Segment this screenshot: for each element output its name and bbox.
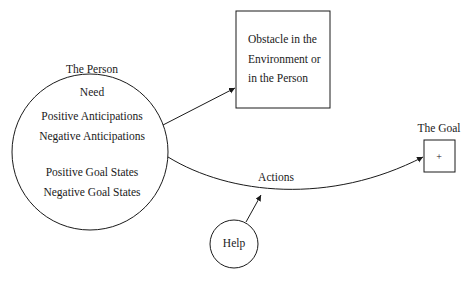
arrow-to-obstacle [163, 88, 235, 125]
positive-goal-states-label: Positive Goal States [46, 167, 139, 179]
negative-anticipations-label: Negative Anticipations [39, 131, 145, 143]
obstacle-line-3: in the Person [248, 73, 308, 85]
obstacle-line-2: Environment or [248, 54, 321, 66]
arrow-help-to-actions [246, 195, 261, 222]
person-title: The Person [66, 64, 118, 76]
help-label: Help [223, 238, 245, 250]
goal-plus-symbol: + [436, 152, 442, 162]
goal-title: The Goal [417, 123, 460, 135]
arrow-actions-to-goal [168, 157, 423, 189]
need-label: Need [80, 87, 104, 99]
actions-label: Actions [258, 172, 294, 184]
negative-goal-states-label: Negative Goal States [43, 187, 140, 199]
obstacle-line-1: Obstacle in the [248, 34, 317, 46]
positive-anticipations-label: Positive Anticipations [41, 111, 142, 123]
